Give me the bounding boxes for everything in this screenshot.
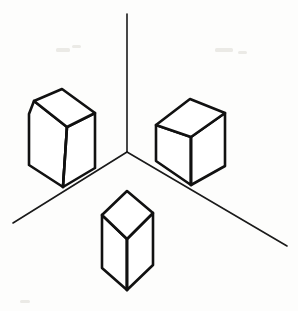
paper-speck: [238, 51, 247, 54]
figure-container: [0, 0, 298, 311]
paper-speck: [72, 45, 81, 48]
three-blocks-corner-drawing: [0, 0, 298, 311]
paper-speck: [215, 48, 233, 52]
paper-speck: [20, 300, 30, 303]
paper-speck: [56, 48, 70, 52]
